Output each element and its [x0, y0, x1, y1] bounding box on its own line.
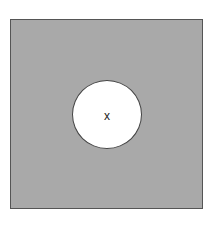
center-label: x	[100, 108, 114, 124]
